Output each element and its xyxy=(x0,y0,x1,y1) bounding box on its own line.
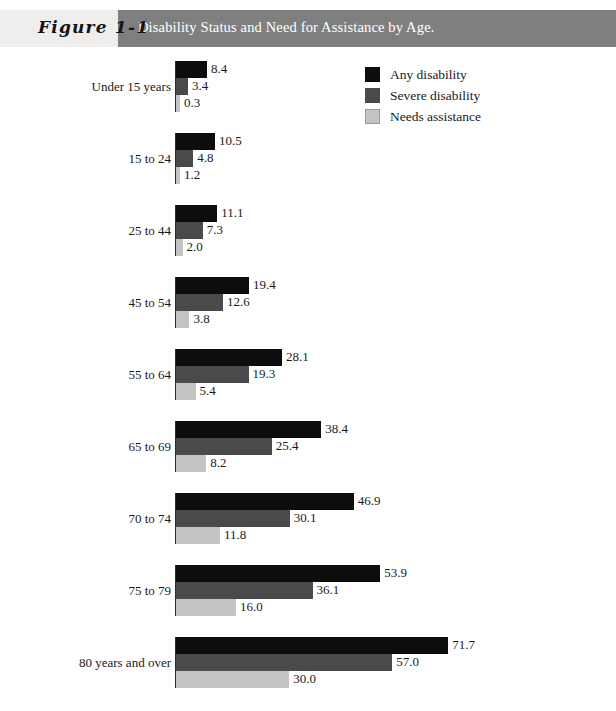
bar-value-label: 16.0 xyxy=(240,598,263,616)
baseline-tick xyxy=(175,565,176,616)
category-label: 55 to 64 xyxy=(0,367,171,383)
figure-title: Disability Status and Need for Assistanc… xyxy=(138,19,435,36)
bar-severe xyxy=(175,654,392,671)
bar-row: 4.8 xyxy=(175,150,605,167)
bar-group: 55 to 6428.119.35.4 xyxy=(0,349,616,401)
bar-value-label: 53.9 xyxy=(384,564,407,582)
bar-any xyxy=(175,421,321,438)
bar-value-label: 2.0 xyxy=(187,238,203,256)
bar-row: 25.4 xyxy=(175,438,605,455)
bar-row: 46.9 xyxy=(175,493,605,510)
bar-severe xyxy=(175,582,313,599)
bar-value-label: 30.0 xyxy=(293,670,316,688)
bar-row: 57.0 xyxy=(175,654,605,671)
bar-any xyxy=(175,565,380,582)
chart-plot-area: Any disabilitySevere disabilityNeeds ass… xyxy=(0,47,616,711)
bar-needs xyxy=(175,671,289,688)
category-label: 45 to 54 xyxy=(0,295,171,311)
category-label: 70 to 74 xyxy=(0,511,171,527)
figure-number: Figure 1-1 xyxy=(38,17,149,37)
baseline-tick xyxy=(175,61,176,112)
bar-needs xyxy=(175,239,183,256)
bar-row: 5.4 xyxy=(175,383,605,400)
bar-value-label: 57.0 xyxy=(396,653,419,671)
bar-group: 80 years and over71.757.030.0 xyxy=(0,637,616,689)
bar-value-label: 19.3 xyxy=(253,365,276,383)
bar-value-label: 19.4 xyxy=(253,276,276,294)
bar-needs xyxy=(175,311,189,328)
bar-group: 15 to 2410.54.81.2 xyxy=(0,133,616,185)
bar-needs xyxy=(175,455,206,472)
bar-row: 28.1 xyxy=(175,349,605,366)
bar-value-label: 25.4 xyxy=(276,437,299,455)
bar-value-label: 30.1 xyxy=(294,509,317,527)
bar-row: 30.0 xyxy=(175,671,605,688)
bar-value-label: 5.4 xyxy=(200,382,216,400)
baseline-tick xyxy=(175,133,176,184)
bar-row: 16.0 xyxy=(175,599,605,616)
bar-row: 1.2 xyxy=(175,167,605,184)
bar-severe xyxy=(175,150,193,167)
bar-severe xyxy=(175,78,188,95)
bar-value-label: 11.8 xyxy=(224,526,246,544)
bar-row: 12.6 xyxy=(175,294,605,311)
category-label: 75 to 79 xyxy=(0,583,171,599)
bar-any xyxy=(175,637,448,654)
bar-value-label: 10.5 xyxy=(219,132,242,150)
bar-row: 19.3 xyxy=(175,366,605,383)
category-label: Under 15 years xyxy=(0,79,171,95)
bar-row: 19.4 xyxy=(175,277,605,294)
category-label: 65 to 69 xyxy=(0,439,171,455)
bar-value-label: 11.1 xyxy=(221,204,243,222)
bar-row: 3.4 xyxy=(175,78,605,95)
bar-row: 30.1 xyxy=(175,510,605,527)
bar-row: 7.3 xyxy=(175,222,605,239)
bar-row: 53.9 xyxy=(175,565,605,582)
bar-group: Under 15 years8.43.40.3 xyxy=(0,61,616,113)
bar-value-label: 28.1 xyxy=(286,348,309,366)
bar-row: 3.8 xyxy=(175,311,605,328)
category-label: 15 to 24 xyxy=(0,151,171,167)
bar-row: 8.2 xyxy=(175,455,605,472)
bar-severe xyxy=(175,510,290,527)
bar-group: 45 to 5419.412.63.8 xyxy=(0,277,616,329)
bar-any xyxy=(175,133,215,150)
bar-value-label: 3.4 xyxy=(192,77,208,95)
bar-group: 25 to 4411.17.32.0 xyxy=(0,205,616,257)
bar-value-label: 4.8 xyxy=(197,149,213,167)
bar-group: 65 to 6938.425.48.2 xyxy=(0,421,616,473)
bar-needs xyxy=(175,599,236,616)
bar-any xyxy=(175,493,354,510)
bar-severe xyxy=(175,366,249,383)
bar-group: 70 to 7446.930.111.8 xyxy=(0,493,616,545)
bar-value-label: 3.8 xyxy=(193,310,209,328)
bar-value-label: 46.9 xyxy=(358,492,381,510)
baseline-tick xyxy=(175,349,176,400)
category-label: 25 to 44 xyxy=(0,223,171,239)
bar-any xyxy=(175,277,249,294)
bar-value-label: 1.2 xyxy=(184,166,200,184)
bar-row: 38.4 xyxy=(175,421,605,438)
baseline-tick xyxy=(175,493,176,544)
bar-value-label: 36.1 xyxy=(317,581,340,599)
bar-row: 11.8 xyxy=(175,527,605,544)
baseline-tick xyxy=(175,421,176,472)
bar-value-label: 7.3 xyxy=(207,221,223,239)
baseline-tick xyxy=(175,205,176,256)
bar-row: 10.5 xyxy=(175,133,605,150)
bar-severe xyxy=(175,222,203,239)
bar-value-label: 38.4 xyxy=(325,420,348,438)
bar-value-label: 12.6 xyxy=(227,293,250,311)
bar-severe xyxy=(175,438,272,455)
bar-needs xyxy=(175,383,196,400)
bar-group: 75 to 7953.936.116.0 xyxy=(0,565,616,617)
bar-any xyxy=(175,205,217,222)
bar-needs xyxy=(175,527,220,544)
bar-value-label: 8.2 xyxy=(210,454,226,472)
bar-severe xyxy=(175,294,223,311)
figure-header: Disability Status and Need for Assistanc… xyxy=(0,10,616,47)
bar-row: 71.7 xyxy=(175,637,605,654)
bar-value-label: 71.7 xyxy=(452,636,475,654)
category-label: 80 years and over xyxy=(0,655,171,671)
bar-row: 0.3 xyxy=(175,95,605,112)
